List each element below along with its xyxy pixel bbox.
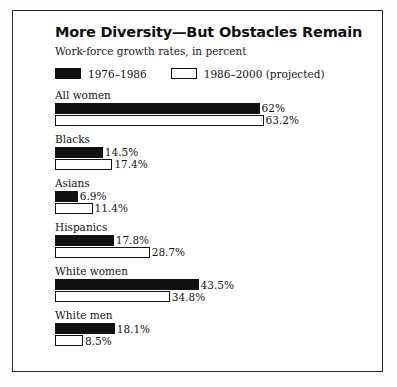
chart-legend: 1976–1986 1986–2000 (projected) [55,68,372,80]
legend-label-past: 1976–1986 [88,68,147,80]
legend-label-projected: 1986–2000 (projected) [204,68,325,80]
bar-group-label: Blacks [55,133,372,145]
chart-content: More Diversity—But Obstacles Remain Work… [55,25,372,365]
chart-title: More Diversity—But Obstacles Remain [55,25,372,41]
bar-value-past: 43.5% [201,280,234,291]
bar-projected [55,291,170,302]
bar-past [55,279,199,290]
bar-projected [55,115,264,126]
bar-row-projected: 17.4% [55,159,372,170]
legend-swatch-solid-icon [55,68,81,79]
bar-past [55,191,78,202]
bar-past [55,147,103,158]
bar-value-past: 62% [262,103,285,114]
bar-value-projected: 8.5% [85,336,112,347]
bar-row-projected: 28.7% [55,247,372,258]
chart-subtitle: Work-force growth rates, in percent [55,45,372,57]
bar-value-projected: 17.4% [114,159,147,170]
bar-row-projected: 11.4% [55,203,372,214]
bar-past [55,323,115,334]
bar-row-past: 17.8% [55,235,372,246]
bar-value-past: 17.8% [116,235,149,246]
bar-group-label: Asians [55,177,372,189]
bar-group-label: Hispanics [55,221,372,233]
legend-swatch-hollow-icon [171,68,197,79]
bar-projected [55,247,150,258]
bar-group-label: White men [55,309,372,321]
bar-projected [55,159,112,170]
bar-row-projected: 8.5% [55,335,372,346]
bar-row-past: 43.5% [55,279,372,290]
bar-group-asians: Asians 6.9% 11.4% [55,177,372,214]
bar-past [55,235,114,246]
bar-group-blacks: Blacks 14.5% 17.4% [55,133,372,170]
legend-item-past: 1976–1986 [55,68,147,80]
bar-value-past: 18.1% [117,324,150,335]
bar-row-past: 6.9% [55,191,372,202]
legend-item-projected: 1986–2000 (projected) [171,68,325,80]
bar-projected [55,335,83,346]
bar-value-projected: 28.7% [152,247,185,258]
bar-group-label: All women [55,89,372,101]
bar-group-white-women: White women 43.5% 34.8% [55,265,372,302]
bar-value-projected: 11.4% [95,203,128,214]
chart-groups: All women 62% 63.2% Blacks 14.5% [55,89,372,346]
bar-projected [55,203,93,214]
bar-group-label: White women [55,265,372,277]
bar-group-all-women: All women 62% 63.2% [55,89,372,126]
bar-row-past: 62% [55,103,372,114]
bar-row-past: 18.1% [55,323,372,334]
bar-row-projected: 63.2% [55,115,372,126]
bar-value-projected: 34.8% [172,292,205,303]
bar-row-projected: 34.8% [55,291,372,302]
bar-row-past: 14.5% [55,147,372,158]
bar-value-past: 14.5% [105,147,138,158]
bar-past [55,103,260,114]
bar-group-hispanics: Hispanics 17.8% 28.7% [55,221,372,258]
bar-value-projected: 63.2% [266,115,299,126]
bar-value-past: 6.9% [80,191,107,202]
chart-page: More Diversity—But Obstacles Remain Work… [0,0,397,387]
chart-frame: More Diversity—But Obstacles Remain Work… [12,10,383,372]
bar-group-white-men: White men 18.1% 8.5% [55,309,372,346]
